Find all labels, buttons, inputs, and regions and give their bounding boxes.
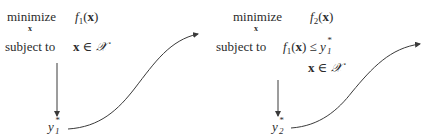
arrows-layer [0, 0, 429, 138]
curve-arrow-right [291, 44, 420, 128]
curve-arrow-left [68, 34, 198, 129]
